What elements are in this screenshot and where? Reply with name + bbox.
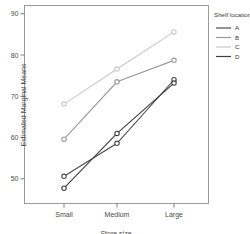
legend-label-b: B <box>235 34 239 41</box>
x-axis-title-text: Store size <box>100 230 131 234</box>
y-axis-title-text: Estimated Marginal Means <box>20 64 27 147</box>
legend-title: Shelf location <box>214 11 250 18</box>
data-series-group <box>62 30 176 191</box>
plot-frame <box>25 6 209 204</box>
y-tick-label: 90 <box>11 10 19 17</box>
legend-label-a: A <box>235 24 240 31</box>
data-point-marker <box>172 81 176 85</box>
y-axis-title: Estimated Marginal Means <box>12 30 30 180</box>
series-line-b <box>64 60 174 139</box>
x-tick-label: Large <box>165 211 183 219</box>
data-point-marker <box>115 80 119 84</box>
chart-container: 5060708090 SmallMediumLarge Shelf locati… <box>0 0 250 234</box>
data-point-marker <box>62 102 66 106</box>
data-point-marker <box>62 137 66 141</box>
data-point-marker <box>62 174 66 178</box>
x-tick-label: Medium <box>105 211 130 218</box>
legend-label-c: C <box>235 43 240 50</box>
x-tick-label: Small <box>55 211 73 218</box>
data-point-marker <box>172 58 176 62</box>
data-point-marker <box>62 186 66 190</box>
series-line-a <box>64 80 174 177</box>
line-chart: 5060708090 SmallMediumLarge Shelf locati… <box>0 0 250 234</box>
data-point-marker <box>115 131 119 135</box>
data-point-marker <box>172 30 176 34</box>
x-axis-title: Store size <box>24 222 208 234</box>
legend-label-d: D <box>235 53 240 60</box>
data-point-marker <box>115 141 119 145</box>
legend: Shelf locationABCD <box>214 11 250 60</box>
data-point-marker <box>115 67 119 71</box>
x-axis-ticks: SmallMediumLarge <box>55 204 183 219</box>
